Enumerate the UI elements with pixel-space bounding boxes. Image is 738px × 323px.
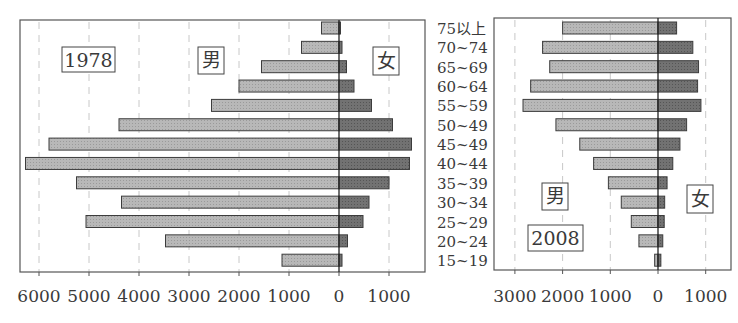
bar-female	[658, 138, 680, 150]
bar-female	[339, 235, 348, 247]
male-label: 男	[202, 49, 221, 71]
age-group-label: 40~44	[437, 155, 488, 173]
bar-male	[86, 216, 339, 228]
bar-female	[658, 119, 687, 131]
bar-female	[339, 138, 412, 150]
male-label-box: 男	[198, 47, 224, 74]
bar-female	[658, 41, 693, 53]
pyramid-charts: 60005000400030002000100001000 1978 男 女 7…	[0, 0, 738, 323]
age-group-label: 25~29	[437, 214, 488, 232]
female-label-box: 女	[373, 47, 399, 75]
age-group-label: 70~74	[437, 39, 488, 57]
bar-female	[339, 157, 410, 169]
bar-male	[119, 119, 339, 131]
year-label: 1978	[64, 49, 112, 71]
bar-male	[543, 41, 658, 53]
female-label: 女	[377, 50, 396, 72]
bar-male	[550, 61, 658, 73]
bar-male	[122, 196, 340, 208]
bar-male	[212, 99, 340, 111]
age-group-label: 45~49	[437, 136, 488, 154]
age-group-label: 75以上	[437, 20, 486, 38]
age-group-label: 20~24	[437, 233, 488, 251]
x-tick-label: 2000	[217, 286, 260, 306]
chart-1978: 60005000400030002000100001000 1978 男 女	[17, 20, 425, 306]
age-group-label: 35~39	[437, 175, 488, 193]
bar-female	[658, 22, 677, 34]
age-group-label: 30~34	[437, 194, 488, 212]
year-label: 2008	[531, 227, 579, 249]
bar-male	[531, 80, 658, 92]
bar-female	[339, 196, 369, 208]
x-tick-label: 1000	[367, 286, 410, 306]
x-tick-label: 1000	[267, 286, 310, 306]
bar-female	[339, 119, 393, 131]
bar-male	[302, 41, 340, 53]
bar-male	[166, 235, 340, 247]
bar-male	[523, 99, 658, 111]
bar-female	[658, 80, 698, 92]
bar-male	[239, 80, 339, 92]
age-group-label: 60~64	[437, 78, 488, 96]
bar-male	[77, 177, 340, 189]
bar-female	[658, 99, 701, 111]
x-tick-labels: 60005000400030002000100001000	[17, 272, 410, 306]
bar-male	[594, 157, 658, 169]
female-label: 女	[691, 188, 710, 210]
x-tick-label: 3000	[167, 286, 210, 306]
bar-female	[658, 216, 664, 228]
bar-male	[282, 254, 339, 266]
bar-male	[639, 235, 658, 247]
bar-male	[563, 22, 658, 34]
bar-male	[580, 138, 658, 150]
bar-female	[339, 216, 363, 228]
x-tick-label: 6000	[17, 286, 60, 306]
bar-male	[26, 157, 340, 169]
bar-female	[658, 177, 667, 189]
year-label-box: 2008	[528, 225, 583, 251]
bar-female	[658, 157, 673, 169]
age-group-labels: 75以上70~7465~6960~6455~5950~4945~4940~443…	[437, 20, 488, 270]
bar-male	[49, 138, 339, 150]
x-tick-label: 0	[334, 286, 345, 306]
x-tick-label: 5000	[67, 286, 110, 306]
bar-female	[339, 80, 354, 92]
age-group-label: 50~49	[437, 117, 488, 135]
female-label-box: 女	[687, 185, 713, 213]
bar-female	[339, 61, 347, 73]
age-group-label: 55~59	[437, 97, 488, 115]
x-tick-label: 2000	[541, 286, 584, 306]
bar-male	[631, 216, 658, 228]
bar-male	[556, 119, 658, 131]
bar-female	[658, 235, 663, 247]
bar-male	[322, 22, 340, 34]
x-tick-labels: 30002000100001000	[493, 270, 727, 306]
x-tick-label: 3000	[493, 286, 536, 306]
bar-female	[658, 196, 665, 208]
x-tick-label: 1000	[589, 286, 632, 306]
x-tick-label: 4000	[117, 286, 160, 306]
x-tick-label: 0	[653, 286, 664, 306]
year-label-box: 1978	[62, 47, 115, 72]
bar-male	[262, 61, 340, 73]
bar-male	[621, 196, 658, 208]
male-label-box: 男	[542, 183, 568, 210]
bar-female	[658, 61, 699, 73]
chart-2008: 30002000100001000 男 2008 女	[493, 18, 731, 306]
x-tick-label: 1000	[684, 286, 727, 306]
age-group-label: 65~69	[437, 59, 488, 77]
bar-female	[339, 99, 372, 111]
population-pyramid-figure: 60005000400030002000100001000 1978 男 女 7…	[0, 0, 738, 323]
bar-female	[339, 177, 389, 189]
bar-male	[608, 177, 658, 189]
age-group-label: 15~19	[437, 252, 488, 270]
male-label: 男	[546, 185, 565, 207]
